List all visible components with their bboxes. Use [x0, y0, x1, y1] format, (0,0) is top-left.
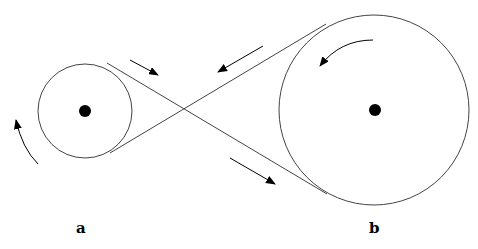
axle-b	[369, 104, 381, 116]
label-a: a	[76, 219, 86, 237]
arrow-belt-bottom-right	[230, 158, 275, 184]
pulley-diagram: a b	[0, 0, 478, 249]
belt-strand-1	[107, 63, 327, 194]
label-b: b	[369, 219, 380, 237]
diagram-canvas	[0, 0, 478, 249]
arrow-rotation-b	[320, 40, 373, 66]
arrow-belt-top-right	[130, 60, 158, 75]
arrow-rotation-a	[16, 120, 38, 164]
arrow-belt-upper-left	[218, 46, 263, 72]
axle-a	[79, 105, 91, 117]
belt-strand-2	[110, 24, 326, 153]
